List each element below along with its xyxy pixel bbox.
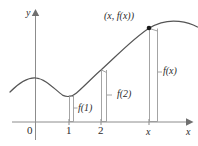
f-of-x-measure-bracket — [150, 29, 163, 122]
curve-point-label: (x, f(x)) — [104, 11, 134, 21]
curve-point-marker — [147, 26, 152, 31]
y-axis-label: y — [26, 8, 30, 18]
origin-label: 0 — [27, 125, 33, 136]
f-of-2-label: f(2) — [117, 89, 131, 99]
f-of-1-label: f(1) — [78, 103, 92, 113]
y-axis-arrow-icon — [32, 9, 39, 16]
x-axis-arrow-icon — [186, 118, 194, 126]
function-curve — [10, 21, 198, 96]
x-tick-label-2: 2 — [98, 125, 104, 136]
x-axis-label: x — [186, 127, 190, 137]
f-of-2-measure-bracket — [102, 70, 113, 122]
function-graph-figure: y x 0 1 2 x f(1) f(2) f(x) (x, f(x)) — [0, 0, 198, 146]
f-of-1-measure-bracket — [70, 96, 78, 122]
x-tick-label-x: x — [146, 127, 150, 137]
f-of-x-label: f(x) — [163, 66, 177, 76]
x-tick-label-1: 1 — [66, 125, 72, 136]
y-axis — [32, 9, 39, 140]
